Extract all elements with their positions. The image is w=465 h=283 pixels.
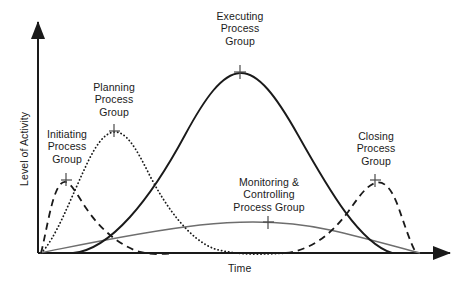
label-executing-line3: Group bbox=[206, 35, 274, 47]
process-group-interaction-chart: Level of Activity Time Initiating Proces… bbox=[0, 0, 465, 283]
label-closing-process-group: Closing Process Group bbox=[346, 130, 406, 167]
label-initiating-line2: Process bbox=[36, 140, 98, 152]
label-monitoring-line2: Controlling bbox=[210, 188, 328, 200]
label-monitoring-line3: Process Group bbox=[210, 201, 328, 213]
y-axis-label: Level of Activity bbox=[18, 112, 30, 186]
label-planning-line2: Process bbox=[83, 93, 145, 105]
label-closing-line2: Process bbox=[346, 142, 406, 154]
label-closing-line1: Closing bbox=[346, 130, 406, 142]
label-planning-line1: Planning bbox=[83, 81, 145, 93]
label-initiating-process-group: Initiating Process Group bbox=[36, 128, 98, 165]
label-monitoring-controlling-process-group: Monitoring & Controlling Process Group bbox=[210, 176, 328, 213]
curve-monitoring-controlling bbox=[40, 222, 420, 253]
label-initiating-line1: Initiating bbox=[36, 128, 98, 140]
curve-initiating bbox=[41, 182, 175, 254]
label-planning-line3: Group bbox=[83, 106, 145, 118]
label-planning-process-group: Planning Process Group bbox=[83, 81, 145, 118]
label-executing-line1: Executing bbox=[206, 10, 274, 22]
label-monitoring-line1: Monitoring & bbox=[210, 176, 328, 188]
label-executing-process-group: Executing Process Group bbox=[206, 10, 274, 47]
label-executing-line2: Process bbox=[206, 22, 274, 34]
label-closing-line3: Group bbox=[346, 155, 406, 167]
x-axis-label: Time bbox=[228, 262, 251, 274]
label-initiating-line3: Group bbox=[36, 153, 98, 165]
